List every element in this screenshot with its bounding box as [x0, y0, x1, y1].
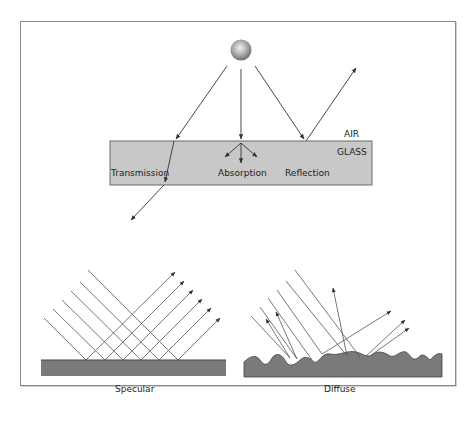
transmission-incident-ray [176, 66, 227, 139]
absorption-label: Absorption [218, 168, 267, 178]
air-label: AIR [344, 129, 359, 139]
light-interaction-diagram: AIR GLASS Transmission Absorption Reflec… [0, 0, 475, 428]
reflection-incident-ray [255, 66, 304, 139]
glass-label: GLASS [337, 147, 367, 157]
light-source-icon [231, 40, 252, 61]
diffuse-label: Diffuse [324, 384, 356, 394]
specular-surface [41, 360, 226, 376]
diffuse-diagram [244, 270, 442, 377]
reflection-label: Reflection [285, 168, 330, 178]
transmission-exit-ray [131, 185, 164, 220]
transmission-label: Transmission [110, 168, 169, 178]
diffuse-surface [244, 352, 442, 377]
specular-diagram [41, 270, 226, 376]
specular-label: Specular [115, 384, 155, 394]
